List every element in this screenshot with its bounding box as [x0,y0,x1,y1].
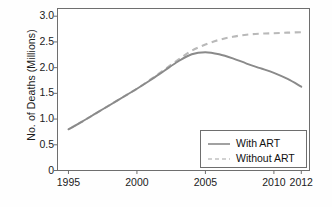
legend-label-without-art: Without ART [236,152,295,164]
x-tick-marks [68,171,301,175]
legend-box: With ART Without ART [200,130,307,168]
legend-item-with-art: With ART [207,135,305,149]
y-tick-marks [54,16,58,170]
legend-label-with-art: With ART [236,137,280,149]
plot-area [0,0,332,207]
legend-swatch-dashed-icon [207,153,231,163]
legend-swatch-solid-icon [207,138,231,148]
legend-item-without-art: Without ART [207,150,305,164]
chart-figure: No. of Deaths (Millions) 00.51.01.52.02.… [0,0,332,207]
